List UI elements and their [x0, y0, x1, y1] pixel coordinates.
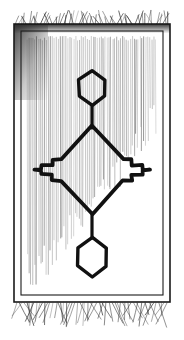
top-left-corner-shadow — [14, 24, 48, 100]
rug-illustration — [0, 0, 184, 340]
rug-drawing-canvas — [0, 0, 184, 340]
